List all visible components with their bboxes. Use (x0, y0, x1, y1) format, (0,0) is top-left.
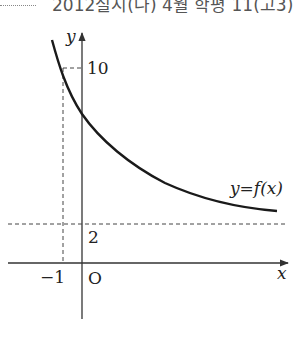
function-label: y=f(x) (229, 178, 283, 198)
function-graph: y 10 2 −1 O x y=f(x) (0, 0, 305, 346)
origin-label: O (88, 268, 102, 288)
asymptote-value-label: 2 (88, 227, 99, 247)
y-tick-10-label: 10 (87, 58, 109, 78)
y-axis-label: y (65, 26, 76, 46)
x-tick-neg1-label: −1 (40, 267, 65, 287)
x-axis-label: x (277, 263, 287, 283)
